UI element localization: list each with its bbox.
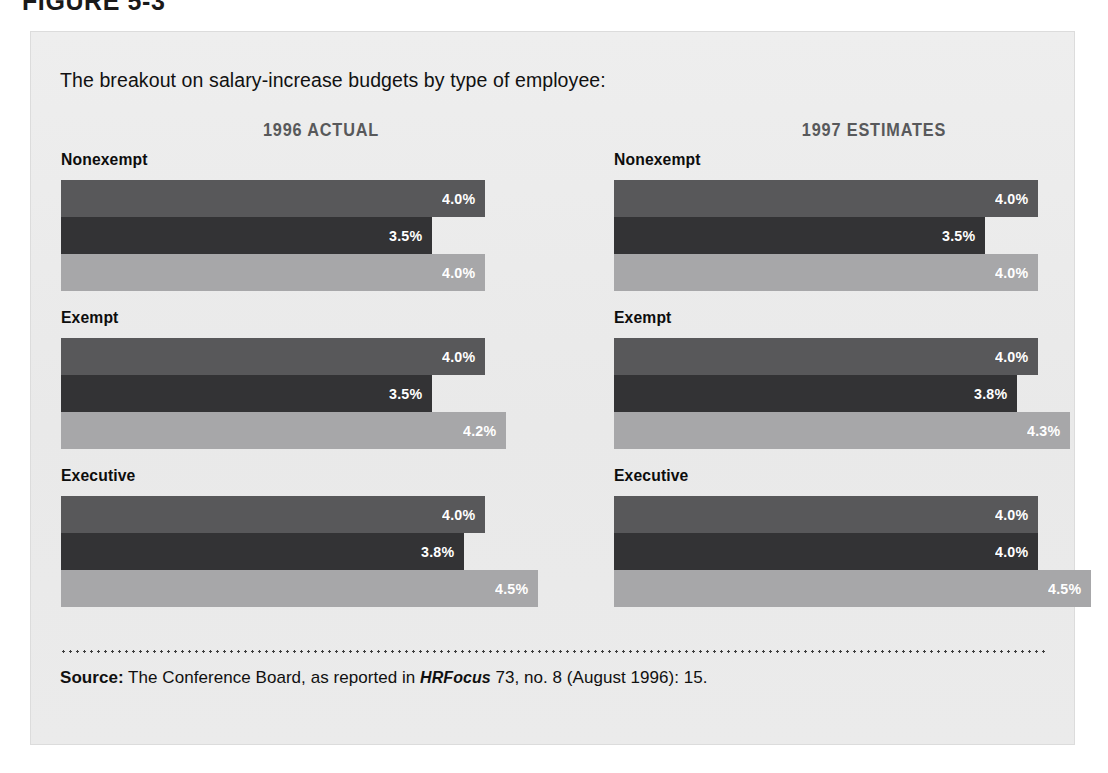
- bar-group-nonexempt: Nonexempt4.0%3.5%4.0%: [614, 150, 1084, 308]
- column-headers: 1996 ACTUAL 1997 ESTIMATES: [31, 120, 1074, 144]
- bar-nonexempt-series-3: 4.0%: [614, 254, 1038, 291]
- bar-row: 4.0%: [614, 180, 1084, 217]
- bar-row: 4.0%: [61, 180, 531, 217]
- bar-value-label: 4.5%: [1048, 580, 1090, 597]
- bar-group-label: Nonexempt: [61, 150, 148, 169]
- bars-container: 4.0%3.5%4.2%: [61, 338, 531, 449]
- bar-value-label: 4.0%: [995, 543, 1037, 560]
- bar-group-exempt: Exempt4.0%3.5%4.2%: [61, 308, 531, 466]
- bar-group-label: Exempt: [614, 308, 671, 327]
- bar-exempt-series-1: 4.0%: [61, 338, 485, 375]
- chart-column-1997: Nonexempt4.0%3.5%4.0%Exempt4.0%3.8%4.3%E…: [614, 150, 1084, 624]
- bar-row: 4.5%: [61, 570, 531, 607]
- bar-value-label: 4.3%: [1027, 422, 1069, 439]
- source-text-after: 73, no. 8 (August 1996): 15.: [491, 668, 708, 687]
- bars-container: 4.0%3.5%4.0%: [61, 180, 531, 291]
- bar-executive-series-2: 3.8%: [61, 533, 464, 570]
- bar-value-label: 3.5%: [389, 385, 431, 402]
- dotted-divider: [60, 650, 1045, 653]
- bar-executive-series-2: 4.0%: [614, 533, 1038, 570]
- bar-nonexempt-series-3: 4.0%: [61, 254, 485, 291]
- figure-panel: The breakout on salary-increase budgets …: [30, 31, 1075, 745]
- bar-executive-series-3: 4.5%: [61, 570, 538, 607]
- bar-row: 4.3%: [614, 412, 1084, 449]
- bars-container: 4.0%4.0%4.5%: [614, 496, 1084, 607]
- bar-value-label: 3.5%: [942, 227, 984, 244]
- bar-row: 4.2%: [61, 412, 531, 449]
- bar-group-label: Nonexempt: [614, 150, 701, 169]
- bar-exempt-series-2: 3.5%: [61, 375, 432, 412]
- bar-value-label: 3.8%: [974, 385, 1016, 402]
- bars-container: 4.0%3.8%4.5%: [61, 496, 531, 607]
- bar-group-exempt: Exempt4.0%3.8%4.3%: [614, 308, 1084, 466]
- bars-container: 4.0%3.8%4.3%: [614, 338, 1084, 449]
- intro-text: The breakout on salary-increase budgets …: [60, 69, 606, 92]
- bar-row: 3.5%: [614, 217, 1084, 254]
- bar-row: 4.0%: [614, 496, 1084, 533]
- bar-exempt-series-3: 4.2%: [61, 412, 506, 449]
- bar-value-label: 3.5%: [389, 227, 431, 244]
- bar-row: 4.5%: [614, 570, 1084, 607]
- bar-value-label: 4.0%: [442, 264, 484, 281]
- bar-executive-series-1: 4.0%: [614, 496, 1038, 533]
- bar-row: 4.0%: [614, 338, 1084, 375]
- chart-column-1996: Nonexempt4.0%3.5%4.0%Exempt4.0%3.5%4.2%E…: [61, 150, 531, 624]
- bar-nonexempt-series-1: 4.0%: [614, 180, 1038, 217]
- bar-exempt-series-1: 4.0%: [614, 338, 1038, 375]
- bar-row: 3.5%: [61, 375, 531, 412]
- bar-nonexempt-series-2: 3.5%: [61, 217, 432, 254]
- bar-row: 4.0%: [61, 338, 531, 375]
- source-text-before: The Conference Board, as reported in: [124, 668, 420, 687]
- bar-group-nonexempt: Nonexempt4.0%3.5%4.0%: [61, 150, 531, 308]
- bar-group-label: Executive: [614, 466, 688, 485]
- bar-group-executive: Executive4.0%3.8%4.5%: [61, 466, 531, 624]
- bar-value-label: 4.2%: [463, 422, 505, 439]
- bar-value-label: 4.0%: [442, 190, 484, 207]
- bar-value-label: 4.5%: [495, 580, 537, 597]
- bar-row: 4.0%: [61, 496, 531, 533]
- bar-value-label: 4.0%: [442, 506, 484, 523]
- column-header-1997: 1997 ESTIMATES: [725, 120, 1023, 141]
- bar-row: 4.0%: [614, 533, 1084, 570]
- bar-row: 4.0%: [61, 254, 531, 291]
- bar-exempt-series-2: 3.8%: [614, 375, 1017, 412]
- source-publication: HRFocus: [420, 669, 491, 686]
- source-label: Source:: [60, 668, 124, 687]
- bar-row: 4.0%: [614, 254, 1084, 291]
- bar-nonexempt-series-2: 3.5%: [614, 217, 985, 254]
- bar-value-label: 4.0%: [995, 264, 1037, 281]
- bar-group-executive: Executive4.0%4.0%4.5%: [614, 466, 1084, 624]
- bar-executive-series-3: 4.5%: [614, 570, 1091, 607]
- bar-value-label: 4.0%: [995, 348, 1037, 365]
- bar-group-label: Executive: [61, 466, 135, 485]
- bar-value-label: 3.8%: [421, 543, 463, 560]
- bar-executive-series-1: 4.0%: [61, 496, 485, 533]
- column-header-1996: 1996 ACTUAL: [172, 120, 470, 141]
- bar-group-label: Exempt: [61, 308, 118, 327]
- bar-row: 3.8%: [61, 533, 531, 570]
- bar-row: 3.5%: [61, 217, 531, 254]
- bars-container: 4.0%3.5%4.0%: [614, 180, 1084, 291]
- figure-caption: FIGURE 5-3: [22, 0, 166, 16]
- bar-row: 3.8%: [614, 375, 1084, 412]
- bar-exempt-series-3: 4.3%: [614, 412, 1070, 449]
- bar-value-label: 4.0%: [442, 348, 484, 365]
- bar-value-label: 4.0%: [995, 506, 1037, 523]
- bar-nonexempt-series-1: 4.0%: [61, 180, 485, 217]
- bar-value-label: 4.0%: [995, 190, 1037, 207]
- source-note: Source: The Conference Board, as reporte…: [60, 668, 708, 688]
